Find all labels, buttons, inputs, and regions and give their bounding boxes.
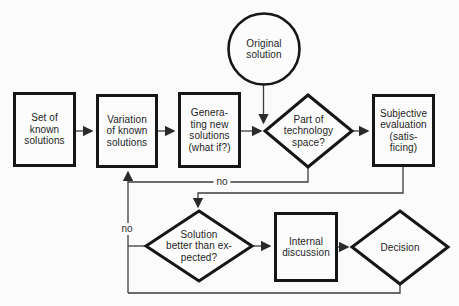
feedback-decision-bottom bbox=[128, 284, 400, 293]
edge-label-no-top: no bbox=[213, 176, 230, 188]
node-decision-shape bbox=[352, 211, 448, 284]
flowchart-canvas: Original solution Set of known solutions… bbox=[0, 0, 459, 306]
node-subjective-evaluation bbox=[372, 94, 435, 167]
node-generating-new-solutions bbox=[178, 92, 241, 168]
node-original-solution-shape bbox=[229, 14, 300, 85]
node-solution-better-shape bbox=[146, 211, 252, 281]
node-set-of-known-solutions bbox=[13, 92, 76, 167]
node-variation-of-known-solutions bbox=[96, 94, 158, 168]
edge-label-no-left: no bbox=[118, 223, 135, 235]
node-part-of-technology-space-shape bbox=[265, 95, 352, 167]
node-internal-discussion bbox=[274, 212, 338, 282]
